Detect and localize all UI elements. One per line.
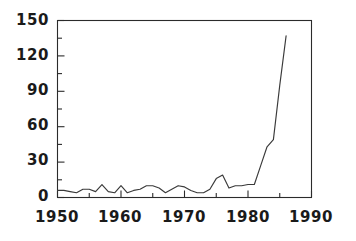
chart-figure: 150 120 90 60 30 0 1950 1960 1970 1980 1… [0, 0, 356, 241]
y-tick-label-120: 120 [16, 46, 49, 64]
y-tick-label-150: 150 [16, 11, 49, 29]
axis-tick-marks [58, 21, 312, 198]
x-tick-label-1990: 1990 [289, 208, 333, 226]
line-chart-plot: 150 120 90 60 30 0 1950 1960 1970 1980 1… [0, 0, 356, 241]
plot-frame [58, 21, 312, 198]
y-axis-tick-labels: 150 120 90 60 30 0 [16, 11, 49, 205]
x-tick-label-1980: 1980 [226, 208, 270, 226]
x-tick-label-1950: 1950 [35, 208, 79, 226]
data-series-line [58, 36, 287, 193]
y-tick-label-60: 60 [27, 116, 49, 134]
x-tick-label-1960: 1960 [98, 208, 142, 226]
y-tick-label-30: 30 [27, 151, 49, 169]
y-tick-label-0: 0 [38, 187, 49, 205]
x-axis-tick-labels: 1950 1960 1970 1980 1990 [35, 208, 333, 226]
y-tick-label-90: 90 [27, 81, 49, 99]
x-tick-label-1970: 1970 [162, 208, 206, 226]
